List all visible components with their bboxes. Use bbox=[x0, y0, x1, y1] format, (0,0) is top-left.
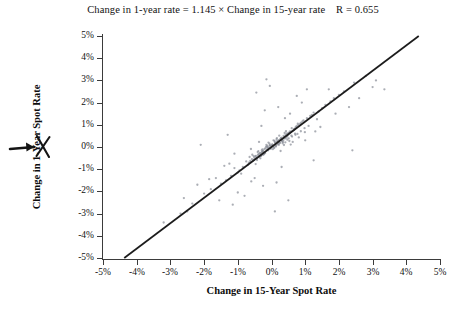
scatter-point bbox=[264, 147, 266, 149]
scatter-point bbox=[257, 150, 259, 152]
scatter-point bbox=[301, 120, 303, 122]
scatter-point bbox=[272, 145, 274, 147]
scatter-point bbox=[232, 204, 234, 206]
scatter-point bbox=[289, 130, 291, 132]
scatter-point bbox=[238, 169, 240, 171]
scatter-point bbox=[274, 210, 276, 212]
scatter-point bbox=[288, 131, 290, 133]
scatter-point bbox=[333, 97, 335, 99]
scatter-point bbox=[251, 158, 253, 160]
scatter-point bbox=[296, 95, 298, 97]
scatter-point bbox=[312, 159, 314, 161]
y-tick-label: 4% bbox=[54, 53, 94, 63]
y-tick-label: 0% bbox=[54, 142, 94, 152]
scatter-point bbox=[271, 144, 273, 146]
scatter-point bbox=[294, 133, 296, 135]
scatter-point bbox=[299, 123, 301, 125]
scatter-point bbox=[286, 135, 288, 137]
scatter-point bbox=[220, 182, 222, 184]
scatter-point bbox=[196, 184, 198, 186]
y-tick-label: 3% bbox=[54, 75, 94, 85]
scatter-point bbox=[279, 142, 281, 144]
scatter-point bbox=[218, 199, 220, 201]
scatter-point bbox=[265, 144, 267, 146]
scatter-point bbox=[266, 149, 268, 151]
scatter-point bbox=[280, 137, 282, 139]
scatter-point bbox=[261, 154, 263, 156]
scatter-point bbox=[300, 130, 302, 132]
scatter-point bbox=[203, 192, 205, 194]
y-tick-label: 5% bbox=[54, 31, 94, 41]
scatter-point bbox=[274, 142, 276, 144]
scatter-point bbox=[186, 210, 188, 212]
scatter-point bbox=[243, 195, 245, 197]
scatter-point bbox=[250, 148, 252, 150]
scatter-point bbox=[311, 114, 313, 116]
scatter-point bbox=[287, 134, 289, 136]
scatter-point bbox=[237, 171, 239, 173]
scatter-point bbox=[268, 146, 270, 148]
scatter-point bbox=[254, 177, 256, 179]
scatter-point bbox=[269, 85, 271, 87]
scatter-point bbox=[256, 157, 258, 159]
scatter-point bbox=[277, 139, 279, 141]
y-axis-label: Change in 1-Year Spot Rate bbox=[31, 85, 42, 210]
scatter-point bbox=[270, 146, 272, 148]
scatter-point bbox=[230, 175, 232, 177]
scatter-point bbox=[291, 135, 293, 137]
scatter-chart-figure: Change in 1-year rate = 1.145 × Change i… bbox=[0, 0, 466, 313]
y-tick-mark bbox=[97, 191, 102, 192]
scatter-point bbox=[272, 139, 274, 141]
y-tick-mark bbox=[97, 58, 102, 59]
scatter-point bbox=[267, 147, 269, 149]
scatter-point bbox=[293, 128, 295, 130]
scatter-point bbox=[275, 181, 277, 183]
scatter-point bbox=[281, 140, 283, 142]
y-tick-mark bbox=[97, 103, 102, 104]
scatter-point bbox=[270, 148, 272, 150]
scatter-point bbox=[249, 160, 251, 162]
scatter-point bbox=[263, 153, 265, 155]
scatter-point bbox=[223, 165, 225, 167]
x-tick-mark bbox=[373, 260, 374, 265]
x-tick-mark bbox=[272, 260, 273, 265]
scatter-point bbox=[263, 153, 265, 155]
scatter-point bbox=[285, 130, 287, 132]
scatter-point bbox=[290, 131, 292, 133]
scatter-point bbox=[252, 160, 254, 162]
x-tick-mark bbox=[204, 260, 205, 265]
scatter-point bbox=[278, 135, 280, 137]
scatter-point bbox=[328, 88, 330, 90]
scatter-point bbox=[297, 124, 299, 126]
scatter-point bbox=[293, 128, 295, 130]
scatter-point bbox=[365, 75, 367, 77]
scatter-point bbox=[283, 136, 285, 138]
scatter-point bbox=[278, 144, 280, 146]
scatter-point bbox=[255, 163, 257, 165]
scatter-point bbox=[283, 144, 285, 146]
scatter-point bbox=[258, 141, 260, 143]
scatter-point bbox=[264, 109, 266, 111]
scatter-point bbox=[284, 117, 286, 119]
scatter-point bbox=[292, 141, 294, 143]
scatter-point bbox=[288, 137, 290, 139]
scatter-point bbox=[261, 151, 263, 153]
scatter-point bbox=[277, 143, 279, 145]
chart-title: Change in 1-year rate = 1.145 × Change i… bbox=[0, 4, 466, 15]
scatter-point bbox=[285, 137, 287, 139]
y-tick-mark bbox=[97, 125, 102, 126]
scatter-point bbox=[338, 94, 340, 96]
scatter-point bbox=[237, 191, 239, 193]
scatter-point bbox=[383, 88, 385, 90]
scatter-point bbox=[306, 117, 308, 119]
scatter-point bbox=[265, 78, 267, 80]
scatter-point bbox=[286, 133, 288, 135]
scatter-point bbox=[290, 135, 292, 137]
y-tick-mark bbox=[97, 80, 102, 81]
scatter-point bbox=[250, 161, 252, 163]
scatter-point bbox=[267, 141, 269, 143]
scatter-point bbox=[259, 152, 261, 154]
scatter-point bbox=[279, 138, 281, 140]
scatter-point bbox=[267, 149, 269, 151]
y-tick-label: -4% bbox=[54, 231, 94, 241]
